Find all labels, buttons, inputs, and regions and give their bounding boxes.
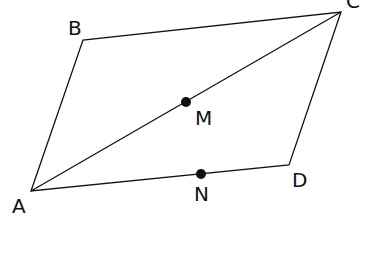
label-a: A: [12, 194, 26, 218]
label-m: M: [195, 106, 212, 130]
label-n: N: [194, 182, 209, 206]
point-m-dot: [181, 97, 191, 107]
label-c: C: [346, 0, 360, 13]
parallelogram-diagram: A B C M D N: [0, 0, 387, 273]
point-n-dot: [196, 169, 206, 179]
label-d: D: [292, 168, 307, 192]
label-b: B: [68, 16, 82, 40]
